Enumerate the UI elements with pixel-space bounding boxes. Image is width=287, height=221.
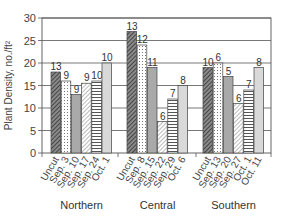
bar xyxy=(203,68,213,154)
bar-value-label: 6 xyxy=(216,52,222,63)
bar-group-northern: 13Uncut9Sep. 39Sep. 109Sep. 1710Sep. 241… xyxy=(38,52,113,211)
group-label: Southern xyxy=(211,199,256,211)
bar-group-central: 13Uncut12Sep. 811Sep. 156Sep. 227Sep. 29… xyxy=(114,21,188,212)
bar xyxy=(213,63,223,153)
bar-value-label: 13 xyxy=(127,21,139,32)
y-tick-label: 15 xyxy=(24,80,36,92)
bar-value-label: 8 xyxy=(256,57,262,68)
bar xyxy=(102,63,112,153)
bar xyxy=(92,81,102,153)
bar-value-label: 7 xyxy=(246,79,252,90)
bar xyxy=(234,104,244,154)
bar xyxy=(158,122,168,154)
bar-chart: 051015202530Plant Density, no./ft²13Uncu… xyxy=(0,0,287,221)
bar-group-southern: 10Uncut6Sep. 135Sep. 206Sep. 277Oct. 18O… xyxy=(190,52,264,211)
group-label: Northern xyxy=(60,199,103,211)
y-tick-label: 10 xyxy=(24,102,36,114)
bar-value-label: 12 xyxy=(137,34,149,45)
y-tick-label: 25 xyxy=(24,35,36,47)
bar xyxy=(254,68,264,154)
y-tick-label: 30 xyxy=(24,12,36,24)
bar xyxy=(71,95,81,154)
bar xyxy=(223,77,233,154)
y-axis-title: Plant Density, no./ft² xyxy=(3,40,14,130)
bar xyxy=(127,32,137,154)
bar xyxy=(82,83,92,153)
bar-value-label: 7 xyxy=(170,88,176,99)
bar xyxy=(137,45,147,153)
bar xyxy=(244,90,254,153)
bar-value-label: 11 xyxy=(147,57,158,68)
bar xyxy=(178,86,188,154)
bar-value-label: 8 xyxy=(180,75,186,86)
bar-value-label: 10 xyxy=(102,52,114,63)
bar-value-label: 9 xyxy=(64,70,70,81)
y-tick-label: 20 xyxy=(24,57,36,69)
bar-value-label: 6 xyxy=(236,93,242,104)
bar xyxy=(147,68,157,154)
bar-value-label: 13 xyxy=(51,61,63,72)
bar-value-label: 9 xyxy=(84,72,90,83)
group-label: Central xyxy=(140,199,175,211)
bar xyxy=(51,72,61,153)
bar-value-label: 10 xyxy=(203,57,215,68)
bar-value-label: 6 xyxy=(160,111,166,122)
bar-value-label: 5 xyxy=(226,66,232,77)
bar-value-label: 9 xyxy=(74,84,80,95)
bar xyxy=(61,81,71,153)
bar xyxy=(168,99,178,153)
y-tick-label: 0 xyxy=(30,147,36,159)
y-tick-label: 5 xyxy=(30,125,36,137)
bar-value-label: 10 xyxy=(91,70,103,81)
